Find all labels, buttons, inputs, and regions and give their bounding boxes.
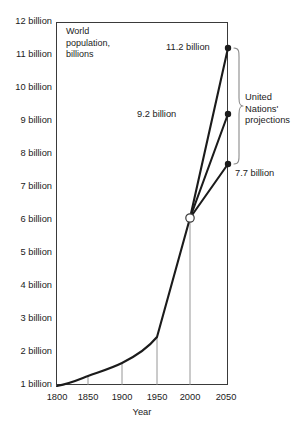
endpoint-dot-low: [225, 161, 231, 167]
historical-population-line: [57, 218, 190, 386]
chart-vector-layer: [0, 0, 301, 447]
un-projections-label: United Nations' projections: [245, 92, 290, 127]
callout-medium: 9.2 billion: [137, 110, 176, 119]
world-population-chart: World population, billions 12 billion 11…: [0, 0, 301, 447]
projections-bracket: [234, 48, 243, 164]
endpoint-dot-medium: [225, 111, 231, 117]
branch-point-marker: [186, 214, 194, 222]
callout-low: 7.7 billion: [235, 169, 274, 178]
gridlines: [88, 218, 190, 385]
endpoint-dot-high: [225, 45, 231, 51]
callout-high: 11.2 billion: [166, 43, 210, 52]
